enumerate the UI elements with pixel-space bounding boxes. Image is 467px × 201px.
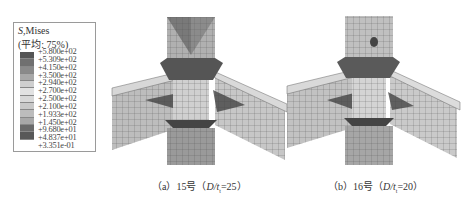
legend-swatch [20, 103, 34, 110]
caption-b: （b）16号（D/tt=20） [328, 178, 423, 194]
legend-title: S,Mises [18, 25, 49, 36]
legend-swatch [20, 118, 34, 125]
legend-swatch [20, 59, 34, 66]
stress-legend: S,Mises (平均: 75%) +5.800e+02+5.309e+02+4… [13, 22, 96, 152]
legend-swatch [20, 132, 34, 139]
legend-swatch [20, 52, 34, 59]
legend-swatch [20, 125, 34, 132]
legend-swatch [20, 67, 34, 74]
legend-color-bar [20, 52, 34, 140]
fe-model-15 [105, 0, 290, 170]
legend-swatch [20, 110, 34, 117]
fe-model-16 [282, 0, 467, 170]
legend-swatch [20, 74, 34, 81]
legend-swatch [20, 88, 34, 95]
legend-values: +5.800e+02+5.309e+02+4.150e+02+3.500e+02… [38, 48, 76, 150]
legend-value: +3.351e-01 [38, 142, 76, 150]
caption-a: （a）15号（D/tt=25） [152, 178, 247, 194]
legend-swatch [20, 81, 34, 88]
legend-swatch [20, 96, 34, 103]
